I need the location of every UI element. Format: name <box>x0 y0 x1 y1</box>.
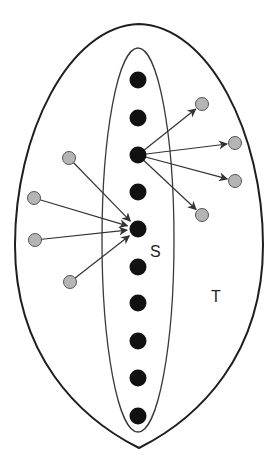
arrow-outgoing <box>138 109 196 155</box>
black-node <box>130 259 147 276</box>
gray-node <box>229 175 242 188</box>
black-node <box>130 221 147 238</box>
set-s-label: S <box>150 244 161 260</box>
black-node <box>130 295 147 312</box>
arrow-incoming <box>70 236 129 282</box>
arrow-incoming <box>35 230 127 240</box>
black-node <box>130 72 147 89</box>
black-node <box>130 110 147 127</box>
gray-node <box>64 276 77 289</box>
arrow-incoming <box>34 198 127 226</box>
gray-node <box>229 137 242 150</box>
arrow-outgoing <box>138 144 227 155</box>
gray-node <box>196 98 209 111</box>
black-node <box>130 147 147 164</box>
set-s-nodes <box>130 72 147 425</box>
black-node <box>130 333 147 350</box>
black-node <box>130 370 147 387</box>
gray-node <box>28 192 41 205</box>
set-diagram <box>0 0 272 467</box>
gray-node <box>196 209 209 222</box>
gray-node <box>29 234 42 247</box>
gray-node <box>63 152 76 165</box>
black-node <box>130 184 147 201</box>
diagram-canvas: S T <box>0 0 272 467</box>
black-node <box>130 408 147 425</box>
set-t-label: T <box>211 289 221 305</box>
